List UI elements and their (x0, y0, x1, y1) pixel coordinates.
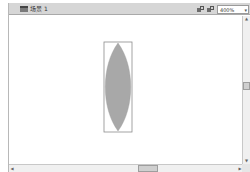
scrollbar-corner (242, 164, 250, 172)
horizontal-scrollbar[interactable]: ◀ ▶ (9, 164, 243, 172)
scroll-left-arrow-icon[interactable]: ◀ (9, 165, 15, 172)
scroll-up-arrow-icon[interactable]: ▲ (243, 16, 250, 22)
stage-drawing (9, 16, 243, 164)
vertical-scrollbar[interactable]: ▲ ▼ (242, 16, 250, 164)
zoom-value: 400% (220, 7, 234, 13)
scene-bar: 场景 1 400% ▾ (9, 3, 250, 15)
stage-canvas[interactable] (9, 16, 243, 164)
vertical-scroll-thumb[interactable] (243, 82, 250, 90)
edit-scene-icon[interactable] (207, 6, 214, 13)
scene-label: 场景 1 (30, 3, 48, 15)
chevron-down-icon[interactable]: ▾ (244, 6, 247, 14)
scene-bar-controls: 400% ▾ (197, 3, 250, 15)
clapboard-icon (20, 6, 28, 12)
zoom-dropdown[interactable]: 400% ▾ (217, 5, 249, 14)
horizontal-scroll-thumb[interactable] (138, 165, 158, 172)
stage-window: 场景 1 400% ▾ ▲ ▼ ◀ ▶ (8, 3, 250, 172)
edit-symbols-icon[interactable] (197, 6, 204, 13)
lens-shape[interactable] (105, 43, 131, 131)
